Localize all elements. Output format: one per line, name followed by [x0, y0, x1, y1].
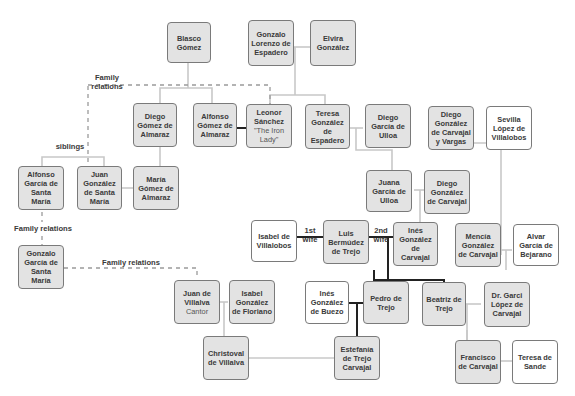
siblings-label: siblings: [52, 142, 88, 151]
person-estefania-de-trejo-carvajal[interactable]: Estefanía de Trejo Carvajal: [334, 336, 380, 380]
person-diego-gonzalez-de-carvajal[interactable]: Diego González de Carvajal: [424, 170, 470, 214]
person-ines-gonzalez-de-buezo[interactable]: Inés González de Buezo: [305, 281, 349, 324]
person-francisco-de-carvajal[interactable]: Francisco de Carvajal: [455, 340, 501, 384]
person-dr-garci-lopez-de-carvajal[interactable]: Dr. Garci López de Carvajal: [484, 282, 530, 327]
person-pedro-de-trejo[interactable]: Pedro de Trejo: [363, 281, 409, 324]
person-maria-gomez-de-almaraz[interactable]: María Gómez de Almaraz: [133, 166, 179, 210]
person-beatriz-de-trejo[interactable]: Beatriz de Trejo: [422, 282, 466, 326]
person-diego-garcia-de-ulloa[interactable]: Diego García de Ulloa: [365, 104, 411, 148]
person-leonor-sanchez[interactable]: Leonor Sánchez "The Iron Lady": [246, 104, 292, 148]
person-alfonso-gomez-de-almaraz[interactable]: Alfonso Gómez de Almaraz: [193, 103, 237, 147]
person-sevilla-lopez-de-villalobos[interactable]: Sevilla López de Villalobos: [486, 106, 532, 150]
person-juana-garcia-de-ulloa[interactable]: Juana García de Ulloa: [366, 170, 412, 212]
person-ines-gonzalez-de-carvajal[interactable]: Inés González de Carvajal: [393, 222, 438, 266]
person-alvar-garcia-de-bejarano[interactable]: Alvar García de Bejarano: [513, 224, 559, 266]
family-relations-label-top: Family relations: [82, 73, 132, 91]
person-blasco-gomez[interactable]: Blasco Gómez: [167, 22, 211, 63]
person-diego-gonzalez-de-carvajal-y-vargas[interactable]: Diego González de Carvajal y Vargas: [428, 106, 474, 150]
person-gonzalo-lorenzo-de-espadero[interactable]: Gonzalo Lorenzo de Espadero: [248, 20, 294, 66]
person-juan-de-villalva[interactable]: Juan de Villalva Cantor: [174, 280, 220, 324]
family-relations-label-left: Family relations: [8, 224, 78, 233]
person-alfonso-garcia-de-santa-maria[interactable]: Alfonso García de Santa María: [18, 166, 64, 210]
person-elvira-gonzalez[interactable]: Elvira González: [310, 20, 356, 66]
person-isabel-de-villalobos[interactable]: Isabel de Villalobos: [251, 220, 297, 262]
person-christoval-de-villalva[interactable]: Christoval de Villalva: [203, 336, 249, 380]
second-wife-label: 2nd wife: [370, 226, 392, 244]
first-wife-label: 1st wife: [299, 226, 321, 244]
family-relations-label-mid: Family relations: [96, 258, 166, 267]
person-luis-bermudez-de-trejo[interactable]: Luis Bermúdez de Trejo: [323, 220, 369, 264]
person-teresa-gonzalez-de-espadero[interactable]: Teresa González de Espadero: [305, 104, 350, 149]
person-isabel-gonzalez-de-floriano[interactable]: Isabel González de Floriano: [229, 280, 275, 324]
person-teresa-de-sande[interactable]: Teresa de Sande: [512, 340, 558, 384]
person-gonzalo-garcia-de-santa-maria[interactable]: Gonzalo García de Santa María: [18, 245, 64, 289]
person-diego-gomez-de-almaraz[interactable]: Diego Gómez de Almaraz: [133, 103, 177, 147]
person-juan-gonzalez-de-santa-maria[interactable]: Juan González de Santa María: [77, 166, 122, 210]
person-mencia-gonzalez-de-carvajal[interactable]: Mencía González de Carvajal: [455, 223, 501, 267]
family-tree-diagram: Blasco Gómez Gonzalo Lorenzo de Espadero…: [0, 0, 575, 396]
